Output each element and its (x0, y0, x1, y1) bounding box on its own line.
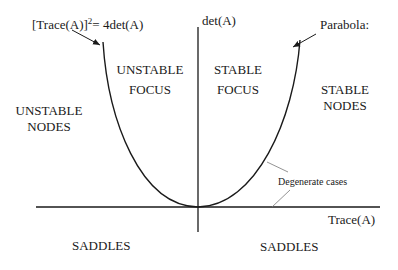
parabola-label: Parabola: (320, 17, 369, 33)
degenerate-pointer-parabola (267, 162, 288, 172)
region-saddles-left: SADDLES (72, 238, 131, 254)
region-saddles-right: SADDLES (260, 239, 319, 255)
det-axis-label: det(A) (202, 13, 236, 29)
region-stable-nodes: STABLE NODES (315, 82, 375, 114)
degenerate-cases-label: Degenerate cases (278, 174, 347, 190)
trace-axis-label: Trace(A) (328, 212, 375, 228)
trace-determinant-plane (0, 0, 398, 270)
region-stable-focus: STABLE FOCUS (208, 62, 268, 98)
region-unstable-focus: UNSTABLE FOCUS (115, 62, 185, 98)
parabola-pointer-arrow (293, 34, 316, 47)
degenerate-pointer-axis (272, 190, 290, 207)
region-unstable-nodes: UNSTABLE NODES (14, 103, 84, 135)
parabola-equation: [Trace(A)]2= 4det(A) (32, 13, 143, 33)
